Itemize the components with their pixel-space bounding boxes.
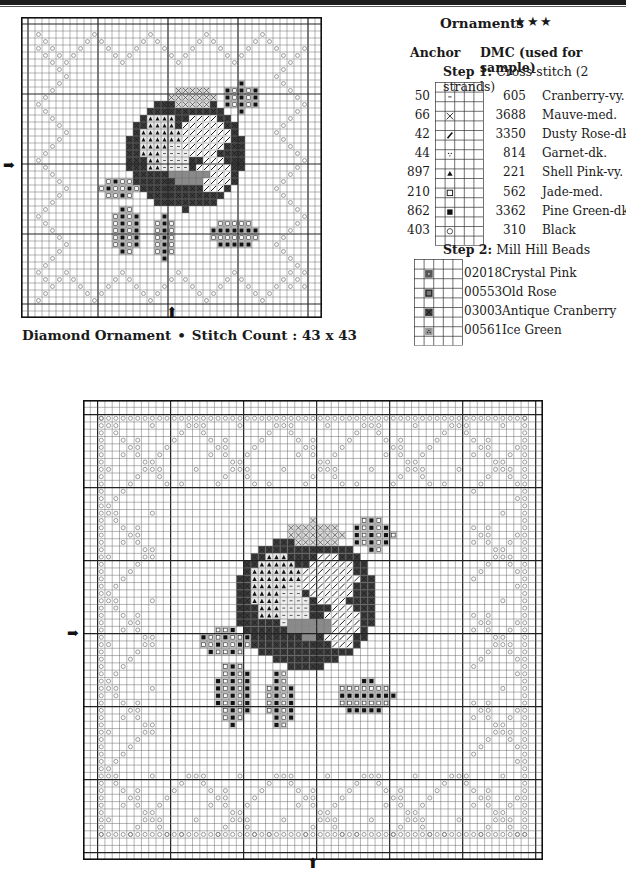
bead-code: 03003: [464, 304, 502, 318]
thread-color-name: Dusty Rose-dk.: [542, 127, 626, 141]
bead-color-name: Old Rose: [502, 285, 557, 299]
thread-anchor-number: 42: [400, 127, 430, 141]
thread-anchor-number: 862: [400, 204, 430, 218]
thread-color-name: Garnet-dk.: [542, 146, 607, 160]
thread-anchor-number: 897: [400, 165, 430, 179]
thread-dmc-number: 814: [490, 146, 526, 160]
anchor-column-header: Anchor: [410, 45, 460, 60]
thread-anchor-number: 66: [400, 108, 430, 122]
center-arrow-left-icon: ➡: [3, 158, 15, 172]
color-key-legend: Ornaments ★★★ Anchor DMC (used for sampl…: [380, 0, 626, 360]
thread-color-name: Black: [542, 223, 576, 237]
thread-dmc-number: 3688: [490, 108, 526, 122]
thread-dmc-number: 221: [490, 165, 526, 179]
thread-anchor-number: 210: [400, 185, 430, 199]
bead-color-name: Crystal Pink: [502, 266, 576, 280]
step1-label: Step 1:: [443, 64, 492, 79]
thread-dmc-number: 605: [490, 89, 526, 103]
thread-dmc-number: 3362: [490, 204, 526, 218]
chart1-title: Diamond Ornament: [22, 327, 171, 343]
thread-color-name: Cranberry-vy. lt.: [542, 89, 626, 103]
step2-heading: Step 2: Mill Hill Beads: [443, 242, 590, 257]
step2-label: Step 2:: [443, 242, 492, 257]
thread-anchor-number: 403: [400, 223, 430, 237]
thread-dmc-number: 3350: [490, 127, 526, 141]
large-ornament-chart: [83, 400, 543, 863]
bead-color-name: Antique Cranberry: [502, 304, 616, 318]
center-arrow-bottom-icon: ⬆: [166, 305, 178, 319]
thread-anchor-number: 50: [400, 89, 430, 103]
thread-anchor-number: 44: [400, 146, 430, 160]
bead-key-grid: [414, 259, 463, 350]
thread-dmc-number: 310: [490, 223, 526, 237]
step2-text: Mill Hill Beads: [492, 242, 590, 257]
bead-code: 00553: [464, 285, 502, 299]
caption-bullet: •: [177, 327, 186, 343]
chart1-caption: Diamond Ornament•Stitch Count : 43 x 43: [22, 327, 357, 343]
thread-color-name: Shell Pink-vy. dk.: [542, 165, 626, 179]
bead-code: 00561: [464, 323, 502, 337]
bead-color-name: Ice Green: [502, 323, 562, 337]
thread-color-name: Jade-med.: [542, 185, 603, 199]
bead-code: 02018: [464, 266, 502, 280]
center-arrow-bottom-icon: ⬆: [307, 856, 319, 870]
legend-title: Ornaments: [440, 15, 524, 31]
stitch-count: Stitch Count : 43 x 43: [192, 327, 357, 343]
thread-color-name: Pine Green-dk.: [542, 204, 626, 218]
thread-color-name: Mauve-med.: [542, 108, 617, 122]
difficulty-stars-icon: ★★★: [514, 14, 553, 29]
diamond-ornament-chart: [21, 17, 323, 319]
thread-key-grid: [435, 82, 484, 250]
thread-dmc-number: 562: [490, 185, 526, 199]
center-arrow-left-icon: ➡: [67, 626, 79, 640]
